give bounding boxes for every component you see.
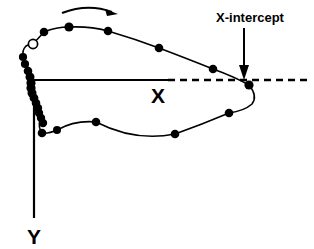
data-point bbox=[171, 130, 180, 139]
x-intercept-label: X-intercept bbox=[216, 10, 285, 25]
data-point bbox=[155, 44, 164, 53]
data-point bbox=[39, 119, 47, 127]
data-point bbox=[104, 27, 113, 36]
data-point bbox=[209, 65, 218, 74]
x-intercept-arrow bbox=[239, 28, 249, 80]
data-point bbox=[225, 109, 234, 118]
data-point bbox=[53, 126, 61, 134]
loop-plot-svg: X-intercept X Y bbox=[0, 0, 314, 249]
data-point bbox=[64, 22, 73, 31]
start-point-open-circle bbox=[28, 39, 37, 48]
clockwise-direction-arrow bbox=[62, 8, 118, 16]
data-point bbox=[244, 80, 253, 89]
data-point bbox=[92, 118, 101, 127]
hysteresis-loop-curve bbox=[23, 27, 255, 136]
data-point bbox=[40, 28, 49, 37]
figure-container: X-intercept X Y bbox=[0, 0, 314, 249]
data-point bbox=[38, 129, 47, 138]
y-axis-label: Y bbox=[27, 225, 41, 248]
data-point bbox=[19, 53, 27, 61]
x-axis-label: X bbox=[151, 84, 165, 107]
